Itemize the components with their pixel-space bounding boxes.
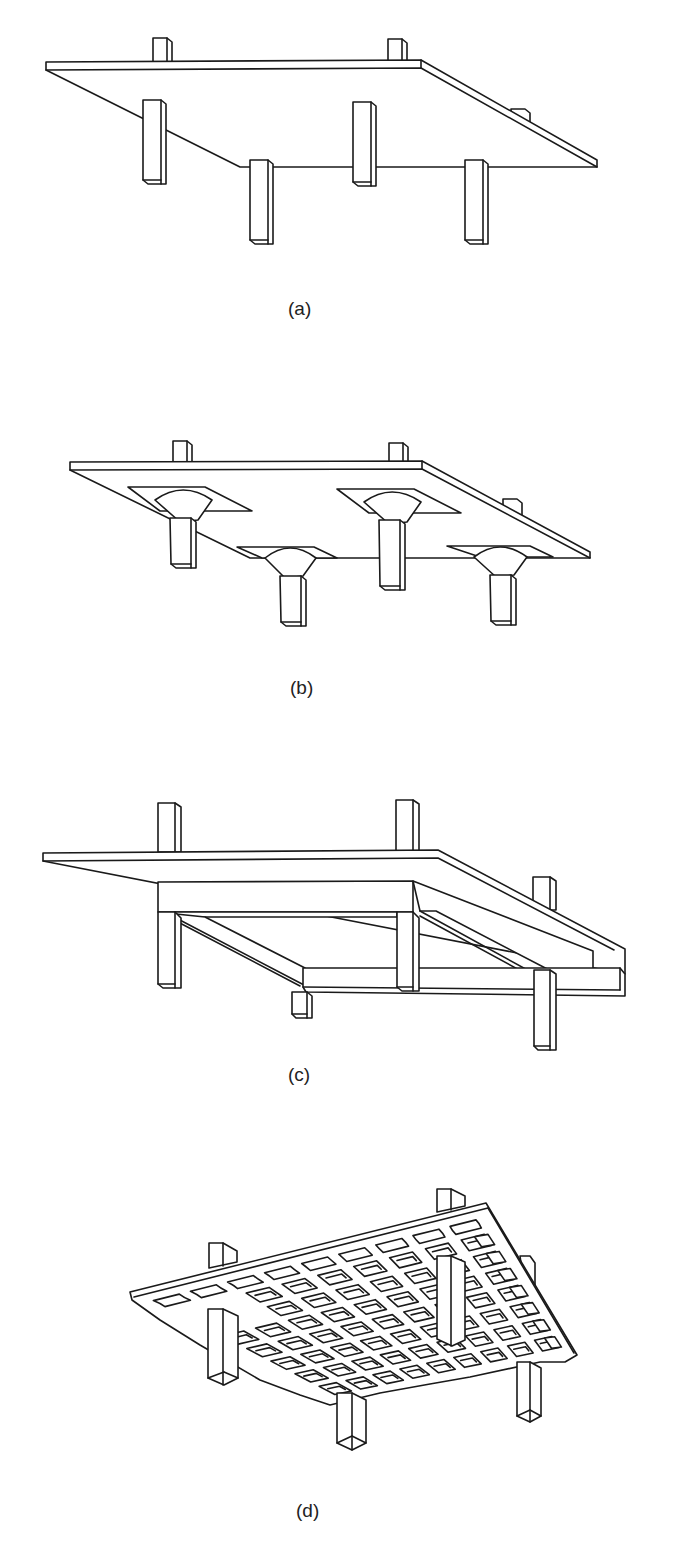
figure-caption-cutoff (118, 1541, 678, 1552)
waffle-slab (130, 1203, 577, 1405)
figure-d-waffle-slab (0, 0, 682, 1552)
column-left (208, 1309, 238, 1385)
caption-d: (d) (296, 1500, 319, 1522)
column-front-right (517, 1362, 541, 1422)
column-front-middle (337, 1393, 366, 1450)
column-middle (437, 1256, 465, 1346)
column-stub-upper-left (209, 1243, 237, 1268)
